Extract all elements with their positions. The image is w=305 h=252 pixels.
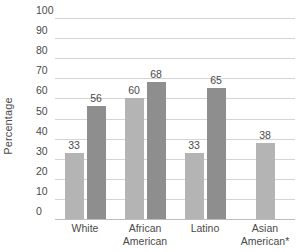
y-tick-label: 10	[36, 186, 48, 197]
bar-value-label: 65	[201, 75, 232, 86]
bar	[87, 106, 106, 219]
x-axis-label-line: American	[100, 235, 190, 248]
bar-value-label: 56	[81, 93, 112, 104]
axis-baseline	[55, 219, 295, 220]
bar	[125, 98, 144, 219]
bar	[185, 153, 204, 219]
y-tick-label: 40	[36, 126, 48, 137]
bar-value-label: 38	[250, 130, 281, 141]
bar	[65, 153, 84, 219]
y-tick-label: 20	[36, 166, 48, 177]
y-tick-label: 50	[36, 106, 48, 117]
y-tick-label: 80	[36, 45, 48, 56]
x-axis-label-line: American*	[220, 235, 305, 248]
bar	[207, 88, 226, 219]
x-axis-category-labels: WhiteAfricanAmericanLatinoAsianAmerican*	[55, 222, 295, 252]
bar-value-label: 33	[179, 140, 210, 151]
bar	[256, 143, 275, 219]
bar-value-label: 33	[59, 140, 90, 151]
y-tick-label: 60	[36, 85, 48, 96]
plot-area: 33566068336538	[55, 18, 295, 219]
bar	[147, 82, 166, 219]
x-axis-label-line: Asian	[220, 222, 305, 235]
bar-chart: Percentage 1009080706050403020100 335660…	[0, 0, 305, 252]
bar-value-label: 68	[141, 69, 172, 80]
bar-value-label: 60	[119, 85, 150, 96]
y-tick-label: 90	[36, 25, 48, 36]
y-tick-label: 30	[36, 146, 48, 157]
y-tick-label: 0	[36, 206, 42, 217]
y-tick-label: 70	[36, 65, 48, 76]
y-tick-label: 100	[36, 5, 54, 16]
x-axis-label: AsianAmerican*	[220, 222, 305, 248]
